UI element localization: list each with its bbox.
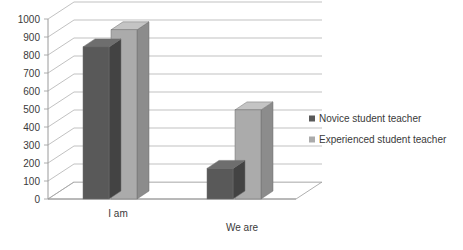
bar-novice-student-teacher-i-am: [83, 39, 121, 199]
y-tick-label: 0: [34, 194, 40, 205]
x-category-label: I am: [108, 208, 127, 219]
gridline-depth: [48, 38, 74, 55]
gridline-depth: [48, 92, 74, 109]
gridline-depth: [48, 164, 74, 181]
bar-front-face: [83, 47, 109, 199]
x-category-label: We are: [226, 222, 258, 233]
legend-swatch: [309, 137, 315, 143]
legend-label: Experienced student teacher: [319, 134, 447, 145]
chart-canvas: 01002003004005006007008009001000I amWe a…: [0, 0, 463, 250]
bar-novice-student-teacher-we-are: [207, 160, 245, 199]
gridline-depth: [48, 146, 74, 163]
gridline-depth: [48, 110, 74, 127]
gridline-depth: [48, 74, 74, 91]
legend-swatch: [309, 116, 315, 122]
y-tick-label: 600: [23, 86, 40, 97]
y-tick-label: 900: [23, 32, 40, 43]
gridline-depth: [48, 20, 74, 37]
gridline-depth: [48, 128, 74, 145]
y-tick-label: 100: [23, 176, 40, 187]
y-tick-label: 500: [23, 104, 40, 115]
legend-label: Novice student teacher: [319, 113, 422, 124]
y-tick-label: 400: [23, 122, 40, 133]
y-tick-label: 300: [23, 140, 40, 151]
bar-chart: 01002003004005006007008009001000I amWe a…: [0, 0, 463, 250]
legend: Novice student teacherExperienced studen…: [309, 113, 447, 145]
y-axis-labels: 01002003004005006007008009001000: [18, 14, 41, 205]
gridline-depth: [48, 56, 74, 73]
y-tick-label: 200: [23, 158, 40, 169]
bar-side-face: [137, 22, 149, 199]
bar-side-face: [109, 39, 121, 199]
y-tick-label: 800: [23, 50, 40, 61]
bar-front-face: [207, 168, 233, 199]
bar-side-face: [261, 102, 273, 199]
gridline-depth: [48, 2, 74, 19]
y-tick-label: 700: [23, 68, 40, 79]
x-axis-labels: I amWe are: [108, 208, 258, 233]
y-tick-label: 1000: [18, 14, 41, 25]
